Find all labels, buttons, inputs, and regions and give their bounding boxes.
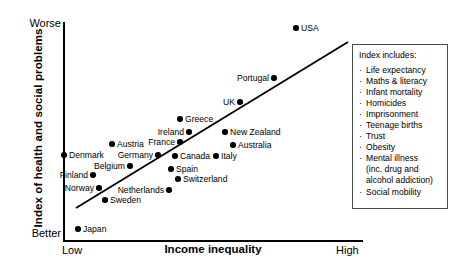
data-point-label: Portugal — [237, 72, 269, 84]
legend-item-label: Infant mortality — [366, 87, 443, 98]
data-point-marker — [230, 142, 236, 148]
legend-item-label: Trust — [366, 131, 443, 142]
x-axis-title: Income inequality — [63, 243, 363, 255]
x-axis-line — [63, 240, 363, 242]
data-point-label: France — [148, 136, 175, 148]
data-point-label: USA — [301, 22, 319, 34]
data-point-marker — [75, 226, 81, 232]
x-axis-tick-low: Low — [62, 244, 82, 256]
data-point-marker — [271, 75, 277, 81]
data-point-marker — [237, 99, 243, 105]
legend-item-label: Social mobility — [366, 187, 443, 198]
bullet-icon: · — [359, 87, 366, 98]
data-point-marker — [172, 153, 178, 159]
data-point-label: Japan — [83, 223, 106, 235]
scatter-chart: Index of health and social problems Inco… — [0, 0, 457, 261]
legend-item-continuation: alcohol addiction) — [359, 175, 443, 186]
legend-item: ·Social mobility — [359, 187, 443, 198]
legend-item: ·Homicides — [359, 98, 443, 109]
data-point-label: Belgium — [94, 160, 125, 172]
legend-item-label: Life expectancy — [366, 65, 443, 76]
data-point-label: Greece — [185, 113, 213, 125]
data-point-marker — [213, 153, 219, 159]
data-point-marker — [168, 166, 174, 172]
legend-item-list: ·Life expectancy·Maths & literacy·Infant… — [359, 65, 443, 198]
legend-item: ·Teenage births — [359, 120, 443, 131]
data-point-marker — [177, 139, 183, 145]
data-point-marker — [222, 129, 228, 135]
data-point-label: Australia — [238, 139, 271, 151]
data-point-marker — [155, 152, 161, 158]
y-axis-tick-better: Better — [32, 227, 61, 239]
legend-item: ·Trust — [359, 131, 443, 142]
data-point-marker — [96, 185, 102, 191]
y-axis-tick-worse: Worse — [29, 17, 61, 29]
bullet-icon: · — [359, 142, 366, 153]
y-axis-title: Index of health and social problems — [32, 13, 44, 243]
data-point-label: Norway — [65, 182, 94, 194]
legend-title: Index includes: — [359, 50, 443, 61]
legend-item: ·Infant mortality — [359, 87, 443, 98]
data-point-marker — [90, 172, 96, 178]
legend-item-label: Mental illness — [366, 153, 443, 164]
legend-box: Index includes: ·Life expectancy·Maths &… — [352, 44, 448, 209]
bullet-icon: · — [359, 65, 366, 76]
legend-item-continuation: (inc. drug and — [359, 164, 443, 175]
data-point-label: UK — [223, 96, 235, 108]
legend-item-label: Obesity — [366, 142, 443, 153]
data-point-label: New Zealand — [230, 126, 281, 138]
bullet-icon: · — [359, 109, 366, 120]
data-point-marker — [109, 141, 115, 147]
data-point-marker — [61, 152, 67, 158]
legend-item: ·Life expectancy — [359, 65, 443, 76]
x-axis-tick-high: High — [336, 244, 359, 256]
data-point-marker — [166, 187, 172, 193]
legend-item: ·Obesity — [359, 142, 443, 153]
bullet-icon: · — [359, 98, 366, 109]
bullet-icon: · — [359, 120, 366, 131]
data-point-label: Switzerland — [183, 173, 227, 185]
legend-item-label: Teenage births — [366, 120, 443, 131]
data-point-label: Sweden — [110, 194, 141, 206]
y-axis-line — [63, 22, 65, 241]
bullet-icon: · — [359, 76, 366, 87]
data-point-marker — [102, 197, 108, 203]
data-point-marker — [175, 176, 181, 182]
legend-item: ·Mental illness — [359, 153, 443, 164]
legend-item-label: Homicides — [366, 98, 443, 109]
legend-item: ·Imprisonment — [359, 109, 443, 120]
bullet-icon: · — [359, 187, 366, 198]
bullet-icon: · — [359, 153, 366, 164]
data-point-marker — [127, 163, 133, 169]
data-point-label: Canada — [180, 150, 210, 162]
legend-item-label: Imprisonment — [366, 109, 443, 120]
data-point-label: Finland — [60, 169, 88, 181]
data-point-marker — [293, 25, 299, 31]
data-point-label: Italy — [221, 150, 237, 162]
data-point-marker — [177, 116, 183, 122]
data-point-marker — [186, 129, 192, 135]
legend-item-label: Maths & literacy — [366, 76, 443, 87]
legend-item: ·Maths & literacy — [359, 76, 443, 87]
bullet-icon: · — [359, 131, 366, 142]
